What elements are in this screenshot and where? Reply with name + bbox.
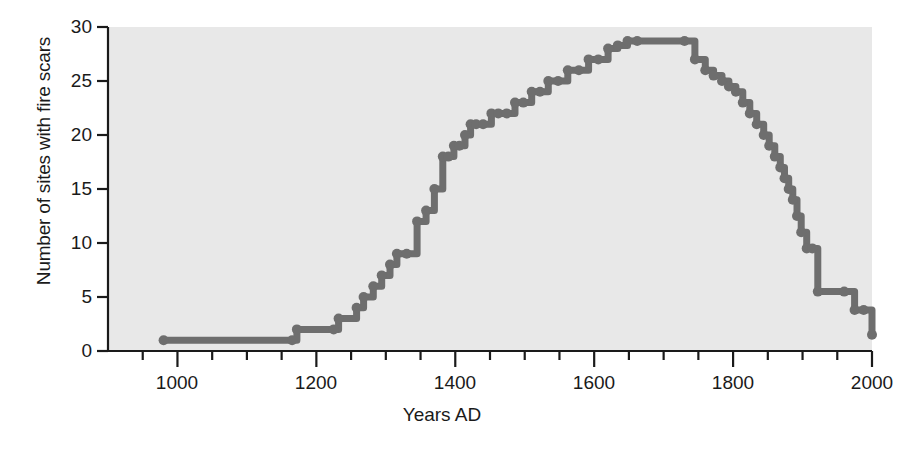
data-point-marker	[839, 287, 849, 297]
data-point-marker	[859, 305, 869, 315]
data-point-marker	[518, 98, 528, 108]
data-point-marker	[454, 141, 464, 151]
data-point-marker	[764, 141, 774, 151]
chart-canvas	[0, 0, 920, 450]
data-point-marker	[731, 87, 741, 97]
data-point-marker	[623, 36, 633, 46]
plot-background	[108, 27, 872, 351]
data-point-marker	[850, 305, 860, 315]
data-point-marker	[402, 249, 412, 259]
data-point-marker	[574, 65, 584, 75]
data-point-marker	[680, 36, 690, 46]
data-point-marker	[807, 243, 817, 253]
data-point-marker	[770, 152, 780, 162]
data-point-marker	[553, 76, 563, 86]
data-point-marker	[385, 260, 395, 270]
data-point-marker	[292, 324, 302, 334]
data-point-marker	[738, 98, 748, 108]
data-point-marker	[377, 270, 387, 280]
data-point-marker	[334, 314, 344, 324]
data-point-marker	[443, 152, 453, 162]
data-point-marker	[603, 44, 613, 54]
data-point-marker	[535, 87, 545, 97]
data-point-marker	[867, 330, 877, 340]
data-point-marker	[593, 54, 603, 64]
data-point-marker	[632, 36, 642, 46]
data-point-marker	[796, 227, 806, 237]
data-point-marker	[752, 119, 762, 129]
data-point-marker	[563, 65, 573, 75]
data-point-marker	[584, 54, 594, 64]
data-point-marker	[412, 216, 422, 226]
data-point-marker	[159, 335, 169, 345]
data-point-marker	[745, 108, 755, 118]
figure: Number of sites with fire scars 30 25 20…	[0, 0, 920, 450]
data-point-marker	[613, 40, 623, 50]
data-point-marker	[780, 173, 790, 183]
data-point-marker	[287, 335, 297, 345]
data-point-marker	[460, 130, 470, 140]
data-point-marker	[709, 71, 719, 81]
data-point-marker	[784, 184, 794, 194]
data-point-marker	[368, 281, 378, 291]
data-point-marker	[429, 184, 439, 194]
y-major-tick-group	[97, 27, 108, 351]
data-point-marker	[421, 206, 431, 216]
data-point-marker	[690, 54, 700, 64]
data-point-marker	[543, 76, 553, 86]
data-point-marker	[478, 119, 488, 129]
data-point-marker	[359, 292, 369, 302]
data-point-marker	[775, 162, 785, 172]
data-point-marker	[502, 108, 512, 118]
data-point-marker	[792, 211, 802, 221]
data-point-marker	[392, 249, 402, 259]
data-point-marker	[329, 324, 339, 334]
data-point-marker	[813, 287, 823, 297]
data-point-marker	[759, 130, 769, 140]
data-point-marker	[788, 195, 798, 205]
data-point-marker	[352, 303, 362, 313]
data-point-marker	[700, 65, 710, 75]
